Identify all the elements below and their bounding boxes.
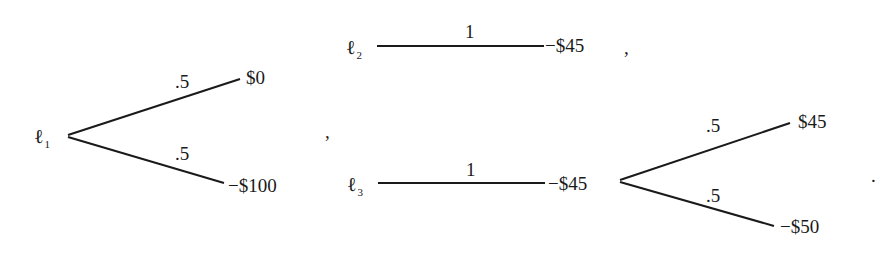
l3-upper-sub-branch — [620, 123, 790, 180]
l2-prob: 1 — [465, 22, 475, 41]
l1-lower-prob: .5 — [175, 144, 189, 163]
period-end: . — [871, 166, 876, 185]
l2-name: ℓ — [346, 36, 356, 58]
l1-lower-outcome: −$100 — [228, 176, 277, 195]
l1-name: ℓ — [34, 125, 44, 147]
l2-subscript: 2 — [357, 49, 363, 61]
l3-lower-sub-branch — [620, 182, 774, 226]
l2-outcome: −$45 — [545, 36, 584, 55]
comma-after-l2: , — [624, 38, 629, 57]
l2-label: ℓ2 — [346, 37, 362, 61]
l3-prob: 1 — [466, 160, 476, 179]
l1-lower-branch — [68, 137, 224, 183]
l1-upper-outcome: $0 — [246, 68, 265, 87]
l3-upper-sub-prob: .5 — [706, 116, 720, 135]
l3-outcome: −$45 — [548, 174, 587, 193]
comma-after-l1: , — [325, 122, 330, 141]
l1-label: ℓ1 — [34, 126, 50, 150]
l3-label: ℓ3 — [347, 174, 363, 198]
l3-name: ℓ — [347, 173, 357, 195]
l3-lower-sub-outcome: −$50 — [780, 217, 819, 236]
l3-upper-sub-outcome: $45 — [798, 112, 827, 131]
l3-lower-sub-prob: .5 — [706, 186, 720, 205]
l1-upper-branch — [68, 79, 240, 135]
l3-subscript: 3 — [358, 186, 364, 198]
tree-lines — [0, 0, 888, 256]
l1-upper-prob: .5 — [175, 72, 189, 91]
l1-subscript: 1 — [45, 138, 51, 150]
